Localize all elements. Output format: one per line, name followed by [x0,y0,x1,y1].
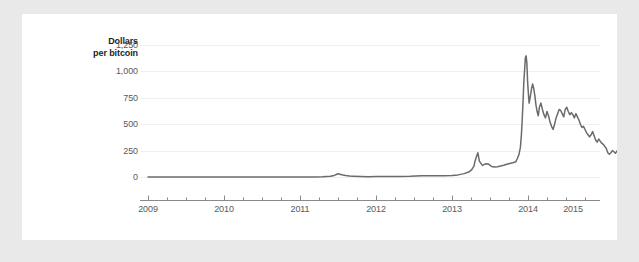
chart-card: Dollars per bitcoin 1,250 1,000 750 500 … [22,14,617,240]
chart-svg [22,14,617,240]
x-axis-ticks [149,196,586,201]
plot-area: Dollars per bitcoin 1,250 1,000 750 500 … [22,14,617,240]
figure-frame: Dollars per bitcoin 1,250 1,000 750 500 … [0,0,639,262]
price-line-series [148,56,617,177]
gridlines [140,46,600,178]
